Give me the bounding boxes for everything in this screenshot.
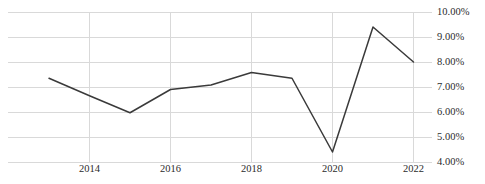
x-axis-tick-label: 2018 (228, 163, 276, 175)
x-axis-tick-label: 2014 (66, 163, 114, 175)
x-axis-tick-label: 2016 (147, 163, 195, 175)
line-chart: 10.00%9.00%8.00%7.00%6.00%5.00%4.00% 201… (0, 0, 485, 184)
x-axis: 20142016201820202022 (0, 0, 485, 184)
x-axis-tick-label: 2020 (309, 163, 357, 175)
x-axis-tick-label: 2022 (390, 163, 438, 175)
